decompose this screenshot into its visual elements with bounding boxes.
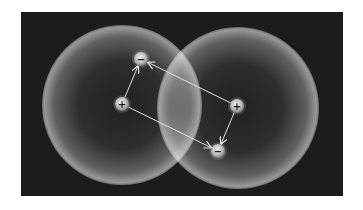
proton-right: +: [228, 97, 246, 115]
minus-sign-icon: −: [137, 54, 145, 65]
proton-left: +: [113, 95, 131, 113]
electron-left: −: [132, 50, 150, 68]
electron-right: −: [209, 142, 227, 160]
plus-sign-icon: +: [233, 101, 241, 112]
bond-diagram: +−+−: [0, 0, 363, 210]
plus-sign-icon: +: [118, 99, 126, 110]
minus-sign-icon: −: [214, 146, 222, 157]
